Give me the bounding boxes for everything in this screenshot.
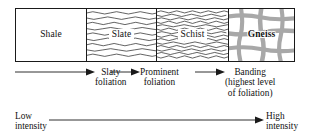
intensity-arrow-wrap <box>49 110 264 126</box>
rock-sequence-row: Shale Slate <box>15 8 295 62</box>
rock-label-shale: Shale <box>38 30 64 40</box>
arrow-right-icon-3 <box>195 66 225 78</box>
arrow-right-icon-2 <box>110 66 140 78</box>
rock-cell-slate: Slate <box>86 9 156 61</box>
rock-label-slate: Slate <box>109 29 135 41</box>
intensity-label-low: Low intensity <box>15 110 47 132</box>
rock-cell-gneiss: Gneiss <box>228 9 294 61</box>
foliation-stage-banding: Banding (highest level of foliation) <box>195 66 275 98</box>
arrow-right-icon-1 <box>15 66 95 78</box>
arrow-right-icon-intensity <box>49 114 264 126</box>
rock-cell-schist: Schist <box>156 9 228 61</box>
intensity-label-high: High intensity <box>266 110 298 132</box>
rock-label-schist: Schist <box>178 29 208 41</box>
foliation-stage-prominent: Prominent foliation <box>110 66 179 88</box>
foliation-stage-label-banding: Banding (highest level of foliation) <box>225 66 275 98</box>
foliation-progression-row: Slaty foliation Prominent foliation Band… <box>15 66 300 106</box>
rock-cell-shale: Shale <box>16 9 86 61</box>
foliation-stage-label-prominent: Prominent foliation <box>140 66 179 88</box>
intensity-scale-row: Low intensity High intensity <box>15 110 300 136</box>
rock-label-gneiss: Gneiss <box>246 30 278 40</box>
metamorphic-foliation-diagram: Shale Slate <box>0 0 312 137</box>
